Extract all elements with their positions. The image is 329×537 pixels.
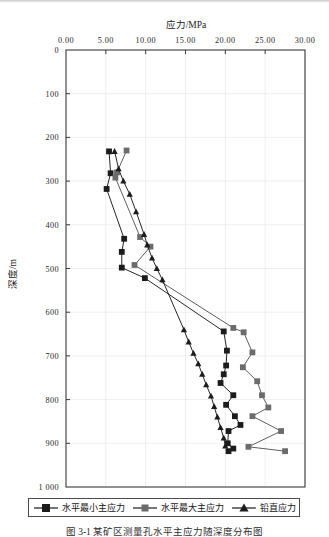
data-point [106,148,112,154]
data-point [195,360,201,366]
data-point [282,448,288,454]
y-tick-label: 800 [46,396,59,405]
data-point [221,329,227,335]
page-top-rule [0,0,329,3]
legend-item-min-horizontal-stress[interactable]: 水平最小主应力 [33,501,125,514]
y-axis-ticks: 01002003004005006007008009001 000 [39,46,70,492]
data-point [112,175,118,181]
legend-item-max-horizontal-stress[interactable]: 水平最大主应力 [132,501,224,514]
data-point [265,405,271,411]
gridlines [66,50,305,487]
y-tick-label: 0 [55,46,60,55]
data-point [250,350,256,356]
y-tick-label: 700 [46,352,59,361]
y-tick-label: 500 [46,265,59,274]
data-point [230,325,236,331]
data-point [119,249,125,255]
data-point [132,262,138,268]
figure-root: 应力/MPa 深度/m 0.005.0010.0015.0020.0025.00… [0,0,329,537]
x-axis-title: 应力/MPa [166,19,207,30]
data-point [221,435,227,441]
square-dark-icon [33,503,59,513]
x-tick-label: 5.00 [98,36,114,45]
legend-item-vertical-stress[interactable]: 铅直应力 [231,501,296,514]
x-tick-label: 20.00 [215,36,235,45]
data-point [120,178,126,184]
y-tick-label: 400 [46,221,59,230]
data-point [214,414,220,420]
y-tick-label: 100 [46,90,59,99]
legend-label: 水平最小主应力 [61,501,125,514]
x-tick-label: 25.00 [255,36,275,45]
data-point [259,392,265,398]
square-gray-icon [132,503,158,513]
x-tick-label: 10.00 [135,36,155,45]
data-point [124,148,130,154]
data-point [127,191,133,197]
data-point [159,277,165,283]
x-tick-label: 15.00 [175,36,195,45]
data-point [115,166,121,172]
y-tick-label: 1 000 [39,483,59,492]
data-point [190,350,196,356]
legend-label: 铅直应力 [259,501,296,514]
y-tick-label: 900 [46,439,59,448]
data-point [199,371,205,377]
x-tick-label: 30.00 [295,36,315,45]
data-point [149,255,155,261]
y-axis-title: 深度/m [7,258,18,289]
x-axis-ticks: 0.005.0010.0015.0020.0025.0030.00 [58,36,315,54]
data-point [217,424,223,430]
data-point [218,380,224,386]
data-point [250,413,256,419]
data-point [241,329,247,335]
data-point [230,392,236,398]
legend-label: 水平最大主应力 [160,501,224,514]
y-tick-label: 600 [46,308,59,317]
data-point [133,208,139,214]
series-1 [104,148,244,454]
triangle-dark-icon [231,503,257,513]
y-tick-label: 200 [46,133,59,142]
stress-depth-chart: 应力/MPa 深度/m 0.005.0010.0015.0020.0025.00… [0,6,329,496]
data-point [238,422,244,428]
data-point [223,402,229,408]
data-point [246,444,252,450]
data-point [240,364,246,370]
data-point [203,381,209,387]
x-tick-label: 0.00 [58,36,74,45]
data-point [119,265,125,271]
data-point [226,448,232,454]
y-tick-label: 300 [46,177,59,186]
figure-caption: 图 3-1 某矿区测量孔水平主应力随深度分布图 [0,524,329,537]
data-point [221,371,227,377]
data-point [208,393,214,399]
data-point [232,413,238,419]
series-layer [104,148,288,454]
data-point [224,348,230,354]
data-point [181,326,187,332]
data-point [142,275,148,281]
data-point [211,403,217,409]
series-3 [112,148,229,448]
data-point [121,236,127,242]
data-point [112,148,118,154]
series-2 [112,148,287,454]
data-point [154,265,160,271]
data-point [278,428,284,434]
data-point [254,378,260,384]
data-point [186,339,192,345]
chart-canvas: 应力/MPa 深度/m 0.005.0010.0015.0020.0025.00… [0,6,329,496]
data-point [141,231,147,237]
data-point [223,363,229,369]
data-point [104,186,110,192]
data-point [226,428,232,434]
chart-legend: 水平最小主应力 水平最大主应力 铅直应力 [28,498,300,517]
